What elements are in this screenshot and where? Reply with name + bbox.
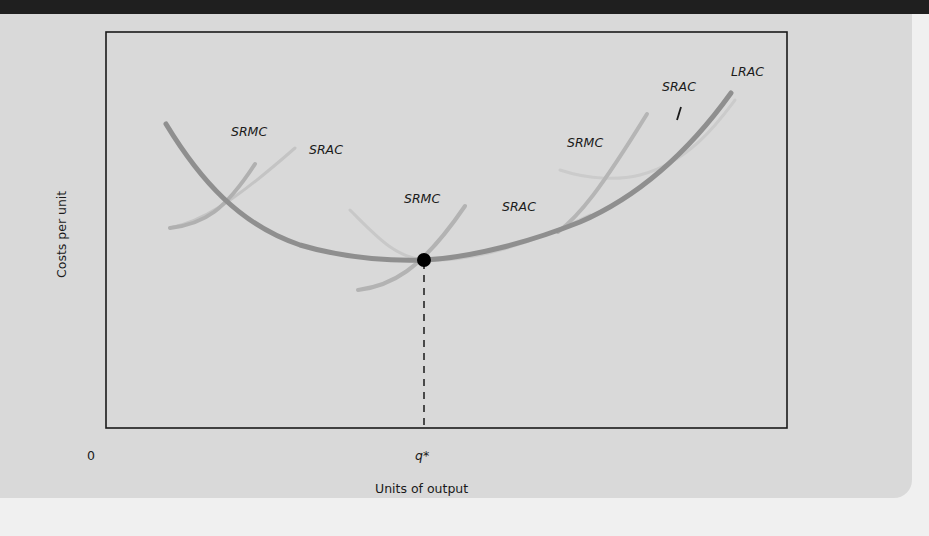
q-star-label: q* <box>415 448 429 463</box>
label-srmc-right: SRMC <box>567 135 603 150</box>
y-axis-label: Costs per unit <box>54 191 69 278</box>
srmc-left-curve <box>170 164 255 228</box>
label-srac-left: SRAC <box>309 142 343 157</box>
x-axis-label: Units of output <box>375 481 468 496</box>
cost-curves-chart: SRMC SRAC SRMC SRAC SRMC SRAC LRAC Costs… <box>0 0 929 536</box>
label-srmc-middle: SRMC <box>404 191 440 206</box>
label-srac-middle: SRAC <box>502 199 536 214</box>
label-srac-right: SRAC <box>662 79 696 94</box>
srac-right-pointer <box>677 107 681 120</box>
page: SRMC SRAC SRMC SRAC SRMC SRAC LRAC Costs… <box>0 0 929 536</box>
lrac-minimum-point <box>417 253 431 267</box>
origin-label: 0 <box>87 448 95 463</box>
label-lrac: LRAC <box>731 64 764 79</box>
srmc-middle-curve <box>358 206 465 290</box>
label-srmc-left: SRMC <box>231 124 267 139</box>
